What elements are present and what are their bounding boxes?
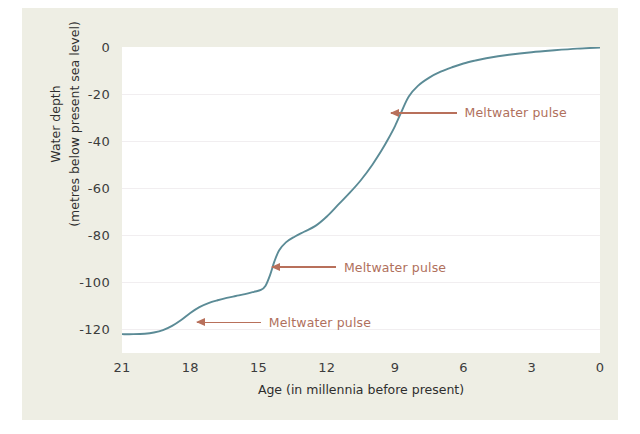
x-axis-tick-label: 12 — [318, 360, 335, 375]
plot-area: Meltwater pulseMeltwater pulseMeltwater … — [122, 47, 600, 353]
sea-level-curve-path — [122, 47, 600, 334]
x-axis-tick-label: 6 — [459, 360, 468, 375]
sea-level-curve — [122, 47, 600, 353]
x-axis-title: Age (in millennia before present) — [122, 382, 600, 397]
y-axis-tick-label: -80 — [88, 228, 110, 243]
y-axis-tick-label: -40 — [88, 134, 110, 149]
y-axis-tick-label: -120 — [79, 322, 110, 337]
y-axis-tick-label: 0 — [101, 40, 110, 55]
x-axis-tick-label: 21 — [113, 360, 130, 375]
y-axis-tick-labels: 0-20-40-60-80-100-120 — [22, 47, 118, 353]
y-axis-tick-label: -20 — [88, 87, 110, 102]
x-axis-tick-label: 3 — [527, 360, 536, 375]
x-axis-tick-label: 0 — [596, 360, 605, 375]
y-axis-tick-label: -100 — [79, 275, 110, 290]
x-axis-tick-labels: 211815129630 — [122, 360, 600, 382]
x-axis-tick-label: 15 — [250, 360, 267, 375]
y-axis-tick-label: -60 — [88, 181, 110, 196]
x-axis-tick-label: 9 — [391, 360, 400, 375]
figure-panel: Water depth (metres below present sea le… — [22, 8, 618, 420]
x-axis-tick-label: 18 — [182, 360, 199, 375]
